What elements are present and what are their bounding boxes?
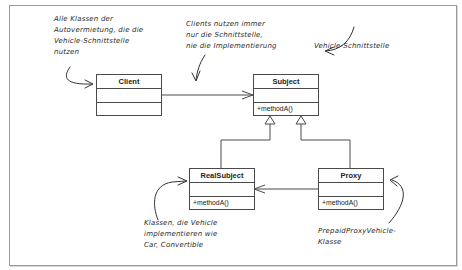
note-line: Alle Klassen der — [54, 14, 143, 25]
class-subject[interactable]: Subject +methodA() — [253, 74, 319, 116]
note-line: PrepaidProxyVehicle- — [318, 226, 396, 237]
class-operations: +methodA() — [254, 103, 318, 115]
generalization-triangle-icon — [265, 116, 275, 124]
note-line: nur die Schnittstelle, — [186, 30, 277, 41]
note-line: nie die Implementierung — [186, 41, 277, 52]
diagram-canvas: Client Subject +methodA() RealSubject +m… — [0, 0, 462, 270]
note-line: nutzen — [54, 47, 143, 58]
note-line: Klassen, die Vehicle — [144, 218, 217, 229]
note-line: Vehicle-Schnittstelle — [314, 41, 389, 52]
note-proxy: PrepaidProxyVehicle- Klasse — [318, 226, 396, 248]
hand-arrow-proxy-icon — [389, 180, 403, 223]
class-name: Subject — [254, 75, 318, 89]
note-line: Autovermietung, die die — [54, 25, 143, 36]
note-line: implementieren wie — [144, 229, 217, 240]
class-attributes — [97, 89, 161, 103]
class-name: RealSubject — [190, 169, 254, 183]
note-realsubject: Klassen, die Vehicle implementieren wie … — [144, 218, 217, 251]
class-name: Client — [97, 75, 161, 89]
class-proxy[interactable]: Proxy +methodA() — [318, 168, 384, 210]
realsubject-generalization-line — [221, 124, 270, 168]
class-attributes — [254, 89, 318, 103]
note-line: Clients nutzen immer — [186, 19, 277, 30]
class-realsubject[interactable]: RealSubject +methodA() — [189, 168, 255, 210]
class-operations: +methodA() — [319, 197, 383, 209]
class-attributes — [319, 183, 383, 197]
hand-arrow-interface-icon — [196, 55, 205, 80]
note-client: Alle Klassen der Autovermietung, die die… — [54, 14, 143, 58]
note-subject: Vehicle-Schnittstelle — [314, 41, 389, 52]
generalization-triangle-icon — [296, 116, 306, 124]
note-interface: Clients nutzen immer nur die Schnittstel… — [186, 19, 277, 52]
class-operations — [97, 103, 161, 115]
hand-arrow-realsubject-icon — [155, 181, 186, 220]
class-operations: +methodA() — [190, 197, 254, 209]
note-line: Vehicle-Schnittstelle — [54, 36, 143, 47]
proxy-generalization-line — [301, 124, 350, 168]
class-name: Proxy — [319, 169, 383, 183]
class-client[interactable]: Client — [96, 74, 162, 116]
note-line: Klasse — [318, 237, 396, 248]
class-attributes — [190, 183, 254, 197]
note-line: Car, Convertible — [144, 240, 217, 251]
